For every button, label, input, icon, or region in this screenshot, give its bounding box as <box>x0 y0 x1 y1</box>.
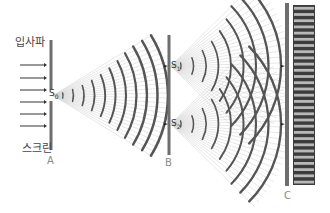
bright-fringe <box>294 150 314 153</box>
bright-fringe <box>294 137 314 140</box>
bright-fringe <box>294 100 314 103</box>
ray-line <box>171 124 277 176</box>
source-s2-subscript: 2 <box>177 123 181 130</box>
incident-wave-label: 입사파 <box>15 37 45 48</box>
ray-line <box>53 77 170 95</box>
bright-fringe <box>294 181 314 184</box>
wavefront-arc <box>73 90 74 102</box>
incident-arrow-head <box>44 76 47 80</box>
bright-fringe <box>294 119 314 122</box>
bright-fringe <box>294 125 314 128</box>
screen-label: 스크린 <box>22 143 52 154</box>
bright-fringe <box>294 50 314 53</box>
bright-fringe <box>294 7 314 10</box>
barrier-c-label: C <box>284 191 291 201</box>
wavefronts <box>63 0 281 201</box>
barrier-b-label: B <box>165 158 172 168</box>
screen-pointer-icon <box>281 123 285 126</box>
wavefront-arc <box>202 109 206 140</box>
wavefront-arc <box>101 75 105 116</box>
bright-fringe <box>294 26 314 29</box>
wavefront-arc <box>142 41 157 150</box>
source-s0-subscript: 0 <box>55 93 59 100</box>
incident-arrow-head <box>44 112 47 116</box>
incident-arrow-head <box>44 63 47 67</box>
bright-fringe <box>294 63 314 66</box>
bright-fringe <box>294 81 314 84</box>
wavefront-arc <box>82 86 84 106</box>
wavefront-arc <box>92 81 95 111</box>
source-s1-subscript: 1 <box>177 65 181 72</box>
screen-pointer-icon <box>281 65 285 68</box>
wavefront-arc <box>192 116 194 133</box>
bright-fringe <box>294 174 314 177</box>
wavefront-arc <box>192 58 194 75</box>
wavefront-arc <box>202 51 206 82</box>
bright-fringe <box>294 19 314 22</box>
source-s1-label: S1 <box>171 61 181 72</box>
ray-line <box>171 124 282 164</box>
bright-fringe <box>294 162 314 165</box>
bright-fringe <box>294 32 314 35</box>
bright-fringe <box>294 57 314 60</box>
ray-line <box>171 0 267 66</box>
ray-line <box>171 124 280 170</box>
source-s2-label: S2 <box>171 119 181 130</box>
ray-line <box>171 72 277 124</box>
incident-wave-arrows <box>20 63 47 128</box>
barrier-c-screen <box>285 3 289 186</box>
barrier-b <box>168 35 171 155</box>
ray-line <box>53 96 170 114</box>
ray-line <box>171 26 282 66</box>
bright-fringe <box>294 69 314 72</box>
bright-fringe <box>294 88 314 91</box>
ray-line <box>171 14 277 66</box>
ray-line <box>171 66 277 118</box>
bright-fringe <box>294 112 314 115</box>
bright-fringe <box>294 143 314 146</box>
interference-diagram <box>0 0 330 213</box>
bright-fringe <box>294 75 314 78</box>
barrier-a-top <box>50 40 53 90</box>
wavefront-arc <box>109 68 115 122</box>
barrier-a-label: A <box>47 156 54 166</box>
incident-arrow-head <box>44 124 47 128</box>
bright-fringe <box>294 131 314 134</box>
source-s0-label: S0 <box>49 89 59 100</box>
wavefront-arc <box>117 61 126 130</box>
bright-fringe <box>294 44 314 47</box>
incident-arrow-head <box>44 100 47 104</box>
incident-arrow-head <box>44 88 47 92</box>
bright-fringe <box>294 168 314 171</box>
wavefront-arc <box>133 46 147 144</box>
ray-line <box>171 124 267 192</box>
ray-line <box>171 20 280 66</box>
bright-fringe <box>294 38 314 41</box>
bright-fringe <box>294 94 314 97</box>
bright-fringe <box>294 106 314 109</box>
interference-fringe-pattern <box>293 5 315 185</box>
bright-fringe <box>294 156 314 159</box>
bright-fringe <box>294 13 314 16</box>
wavefront-arc <box>151 35 168 155</box>
